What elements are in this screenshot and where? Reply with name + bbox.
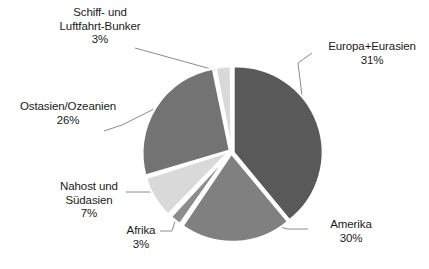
pie-label-schiff-value: 3%	[30, 33, 170, 47]
pie-label-schiff-line2: Luftfahrt-Bunker	[30, 20, 170, 34]
pie-chart-figure: Schiff- und Luftfahrt-Bunker 3% Europa+E…	[0, 0, 429, 269]
pie-slices	[142, 66, 322, 242]
pie-label-nahost-line2: Südasien	[36, 194, 142, 208]
pie-label-afrika-value: 3%	[110, 238, 172, 252]
pie-label-europa-line1: Europa+Eurasien	[316, 40, 428, 54]
pie-label-amerika-line1: Amerika	[310, 218, 392, 232]
pie-label-schiff-line1: Schiff- und	[30, 6, 170, 20]
pie-label-europa: Europa+Eurasien 31%	[316, 40, 428, 67]
pie-label-amerika: Amerika 30%	[310, 218, 392, 245]
pie-label-amerika-value: 30%	[310, 232, 392, 246]
pie-label-europa-value: 31%	[316, 54, 428, 68]
pie-label-ostasien-value: 26%	[2, 114, 134, 128]
pie-label-nahost-value: 7%	[36, 207, 142, 221]
pie-label-nahost: Nahost und Südasien 7%	[36, 180, 142, 221]
pie-label-afrika-line1: Afrika	[110, 224, 172, 238]
pie-label-schiff: Schiff- und Luftfahrt-Bunker 3%	[30, 6, 170, 47]
pie-label-ostasien-line1: Ostasien/Ozeanien	[2, 100, 134, 114]
pie-label-nahost-line1: Nahost und	[36, 180, 142, 194]
pie-label-ostasien: Ostasien/Ozeanien 26%	[2, 100, 134, 127]
pie-label-afrika: Afrika 3%	[110, 224, 172, 251]
